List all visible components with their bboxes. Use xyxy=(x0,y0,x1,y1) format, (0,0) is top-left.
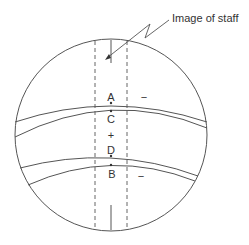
sign-minus-lower: − xyxy=(138,170,144,182)
point-b-dot xyxy=(110,164,112,166)
point-c-dot xyxy=(110,110,112,112)
label-b: B xyxy=(108,168,115,180)
label-a: A xyxy=(107,91,115,103)
sign-minus-upper: − xyxy=(141,91,147,103)
label-c: C xyxy=(107,113,115,125)
callout-label: Image of staff xyxy=(172,12,239,24)
telescope-field-of-view-diagram: A C + D B − − Image of staff xyxy=(0,0,249,245)
callout-arrowhead-icon xyxy=(105,54,111,60)
sign-plus: + xyxy=(108,129,114,141)
label-d: D xyxy=(107,144,115,156)
